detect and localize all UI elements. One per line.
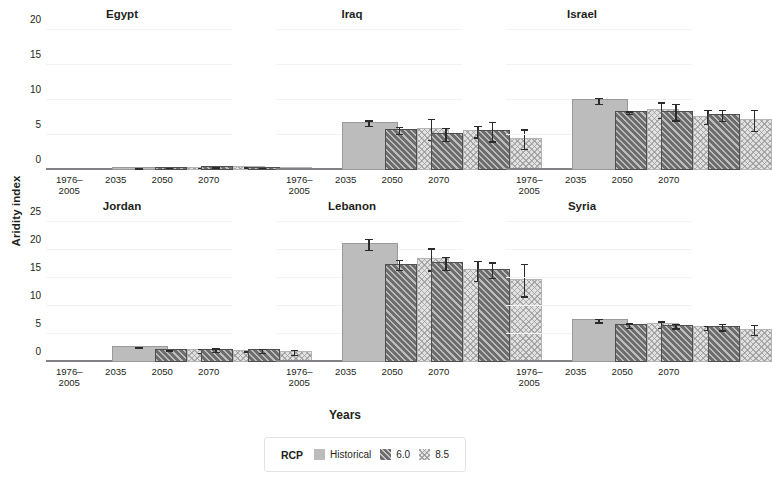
- x-tick-label-2: 2050: [382, 174, 403, 185]
- x-group-0: 1976–2005: [46, 222, 93, 362]
- x-group-1: 2035: [93, 222, 140, 362]
- x-tick-label-2: 2050: [152, 366, 173, 377]
- y-tick-10: 10: [15, 290, 41, 301]
- bar-israel-3-rcp60: [708, 114, 740, 170]
- y-tick-20: 20: [15, 234, 41, 245]
- x-tick-label-3: 2070: [428, 174, 449, 185]
- y-tick-0: 0: [15, 346, 41, 357]
- legend-label-rcp60: 6.0: [396, 449, 410, 460]
- x-group-1: 2035: [93, 30, 140, 170]
- x-group-0: 1976–2005: [276, 30, 323, 170]
- y-tick-20: 20: [15, 14, 41, 25]
- x-tick-label-2: 2050: [152, 174, 173, 185]
- x-tick-label-1: 2035: [105, 366, 126, 377]
- bar-israel-3-rcp85: [740, 119, 772, 170]
- legend-label-rcp85: 8.5: [435, 449, 449, 460]
- x-tick-label-0: 1976–2005: [56, 174, 83, 196]
- x-group-2: 2050: [599, 222, 646, 362]
- plot-area-syria: 1976–2005203520502070: [506, 222, 692, 362]
- x-group-2: 2050: [139, 222, 186, 362]
- x-tick-label-1: 2035: [105, 174, 126, 185]
- plot-area-israel: 1976–2005203520502070: [506, 30, 692, 170]
- x-group-3: 2070: [646, 30, 693, 170]
- plot-area-iraq: 1976–2005203520502070: [276, 30, 462, 170]
- y-tick-25: 25: [15, 206, 41, 217]
- x-tick-label-1: 2035: [565, 174, 586, 185]
- y-tick-5: 5: [15, 119, 41, 130]
- panel-title-iraq: Iraq: [238, 8, 466, 20]
- x-group-3: 2070: [186, 222, 233, 362]
- x-group-2: 2050: [139, 30, 186, 170]
- panel-title-egypt: Egypt: [8, 8, 236, 20]
- x-tick-label-1: 2035: [565, 366, 586, 377]
- x-group-0: 1976–2005: [506, 30, 553, 170]
- legend-title: RCP: [281, 449, 303, 461]
- x-group-0: 1976–2005: [46, 30, 93, 170]
- bar-syria-3-rcp85: [740, 329, 772, 362]
- y-tick-15: 15: [15, 262, 41, 273]
- x-tick-label-0: 1976–2005: [286, 174, 313, 196]
- x-group-2: 2050: [599, 30, 646, 170]
- x-group-2: 2050: [369, 222, 416, 362]
- x-tick-label-0: 1976–2005: [516, 366, 543, 388]
- x-tick-label-2: 2050: [612, 174, 633, 185]
- x-tick-label-0: 1976–2005: [286, 366, 313, 388]
- x-tick-label-0: 1976–2005: [516, 174, 543, 196]
- x-group-3: 2070: [646, 222, 693, 362]
- x-group-1: 2035: [323, 30, 370, 170]
- panel-lebanon: Lebanon1976–2005203520502070: [238, 200, 466, 396]
- x-tick-label-1: 2035: [335, 366, 356, 377]
- x-tick-label-3: 2070: [658, 174, 679, 185]
- x-axis-title: Years: [0, 408, 690, 422]
- y-tick-5: 5: [15, 318, 41, 329]
- panel-israel: Israel1976–2005203520502070: [468, 8, 696, 204]
- y-tick-15: 15: [15, 49, 41, 60]
- panel-title-lebanon: Lebanon: [238, 200, 466, 212]
- x-group-0: 1976–2005: [276, 222, 323, 362]
- rcp85-swatch: [419, 449, 430, 460]
- legend-item-rcp60[interactable]: 6.0: [380, 449, 410, 460]
- x-tick-label-3: 2070: [198, 174, 219, 185]
- plot-area-lebanon: 1976–2005203520502070: [276, 222, 462, 362]
- y-tick-0: 0: [15, 154, 41, 165]
- plot-area-jordan: 05101520251976–2005203520502070: [46, 222, 232, 362]
- x-tick-label-3: 2070: [428, 366, 449, 377]
- panel-title-syria: Syria: [468, 200, 696, 212]
- legend-label-historical: Historical: [330, 449, 371, 460]
- error-bar-israel-3-rcp85: [754, 110, 755, 132]
- legend-item-historical[interactable]: Historical: [314, 449, 371, 460]
- x-group-1: 2035: [323, 222, 370, 362]
- historical-swatch: [314, 449, 325, 460]
- error-bar-syria-3-rcp85: [754, 325, 755, 336]
- panel-syria: Syria1976–2005203520502070: [468, 200, 696, 396]
- x-tick-label-2: 2050: [612, 366, 633, 377]
- error-bar-syria-3-rcp60: [722, 324, 723, 332]
- y-tick-10: 10: [15, 84, 41, 95]
- x-group-2: 2050: [369, 30, 416, 170]
- x-group-3: 2070: [416, 30, 463, 170]
- panel-jordan: Jordan05101520251976–2005203520502070: [8, 200, 236, 396]
- x-group-1: 2035: [553, 222, 600, 362]
- x-group-3: 2070: [186, 30, 233, 170]
- rcp60-swatch: [380, 449, 391, 460]
- x-tick-label-3: 2070: [198, 366, 219, 377]
- x-tick-label-2: 2050: [382, 366, 403, 377]
- x-group-0: 1976–2005: [506, 222, 553, 362]
- x-tick-label-0: 1976–2005: [56, 366, 83, 388]
- legend: RCP Historical 6.0 8.5: [264, 437, 466, 472]
- panel-egypt: Egypt051015201976–2005203520502070: [8, 8, 236, 204]
- plot-area-egypt: 051015201976–2005203520502070: [46, 30, 232, 170]
- x-group-3: 2070: [416, 222, 463, 362]
- panel-title-israel: Israel: [468, 8, 696, 20]
- error-bar-israel-3-rcp60: [722, 110, 723, 123]
- panel-iraq: Iraq1976–2005203520502070: [238, 8, 466, 204]
- legend-item-rcp85[interactable]: 8.5: [419, 449, 449, 460]
- x-tick-label-1: 2035: [335, 174, 356, 185]
- x-tick-label-3: 2070: [658, 366, 679, 377]
- panel-title-jordan: Jordan: [8, 200, 236, 212]
- x-group-1: 2035: [553, 30, 600, 170]
